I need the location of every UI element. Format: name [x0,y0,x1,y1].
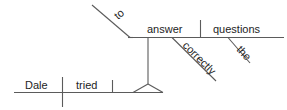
word-correctly: correctly [181,39,219,77]
infinitive-marker-line [92,5,130,38]
word-tried: tried [76,79,97,91]
pedestal-left-leg [133,84,148,93]
pedestal-right-leg [148,84,163,93]
word-answer: answer [147,23,183,35]
word-questions: questions [213,23,261,35]
word-to: to [112,6,127,21]
word-the: the [235,43,254,62]
word-dale: Dale [25,79,48,91]
diagram-canvas: Dale tried to answer questions the corre… [0,0,287,110]
sentence-diagram: Dale tried to answer questions the corre… [0,0,287,110]
